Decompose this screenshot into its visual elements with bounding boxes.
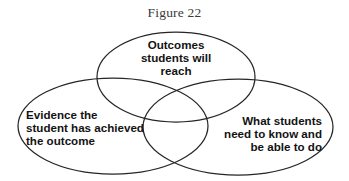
figure-container: Figure 22 Outcomes students will reach E… bbox=[0, 0, 349, 181]
venn-label-knowledge: What students need to know and be able t… bbox=[188, 114, 322, 154]
venn-label-evidence: Evidence the student has achieved the ou… bbox=[26, 108, 181, 148]
venn-diagram-graphic bbox=[0, 0, 349, 181]
venn-label-outcomes: Outcomes students will reach bbox=[113, 38, 239, 78]
